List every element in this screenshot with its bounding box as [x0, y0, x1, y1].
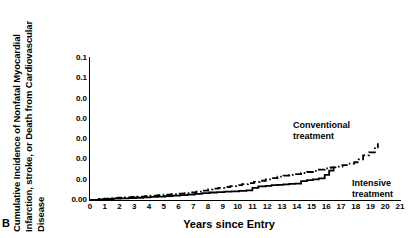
y-tick-label: 0.0 — [57, 135, 87, 143]
y-tick-label: 0.0 — [57, 95, 87, 103]
y-axis-title-line-2: Infarction, stroke, or Death from Cardio… — [24, 21, 34, 232]
y-tick-label: 0.0 — [57, 155, 87, 163]
series-label-conventional: Conventional treatment — [293, 120, 350, 142]
figure-panel-b: B Cumulative Incidence of Nonfatal Myoca… — [0, 0, 412, 238]
x-tick-label: 17 — [336, 203, 345, 211]
x-axis-tick-labels: 0123456789101112131415161718192021 — [0, 203, 412, 217]
y-tick-label: 0.0 — [57, 115, 87, 123]
x-tick-label: 2 — [117, 203, 121, 211]
x-tick-label: 1 — [103, 203, 107, 211]
x-tick-label: 15 — [307, 203, 316, 211]
series-label-intensive: Intensive treatment — [352, 178, 393, 200]
x-tick-label: 16 — [322, 203, 331, 211]
x-tick-label: 13 — [277, 203, 286, 211]
x-tick-label: 20 — [381, 203, 390, 211]
y-tick-label: 0.0 — [57, 176, 87, 184]
x-tick-label: 18 — [351, 203, 360, 211]
x-tick-label: 0 — [88, 203, 92, 211]
x-tick-label: 4 — [147, 203, 151, 211]
x-tick-label: 9 — [221, 203, 225, 211]
x-axis-title-text: Years since Entry — [183, 218, 275, 230]
x-tick-label: 5 — [162, 203, 166, 211]
x-tick-label: 14 — [292, 203, 301, 211]
x-tick-label: 11 — [248, 203, 256, 211]
x-axis-title: Years since Entry — [0, 219, 412, 230]
x-tick-label: 3 — [132, 203, 136, 211]
x-tick-label: 19 — [366, 203, 375, 211]
x-tick-label: 8 — [206, 203, 210, 211]
y-tick-label: 0.1 — [57, 54, 87, 62]
y-tick-label: 0.1 — [57, 74, 87, 82]
x-tick-label: 6 — [176, 203, 180, 211]
series-line-intensive — [90, 167, 334, 200]
x-tick-label: 12 — [263, 203, 272, 211]
x-tick-label: 10 — [233, 203, 242, 211]
x-tick-label: 21 — [396, 203, 405, 211]
x-tick-label: 7 — [191, 203, 195, 211]
